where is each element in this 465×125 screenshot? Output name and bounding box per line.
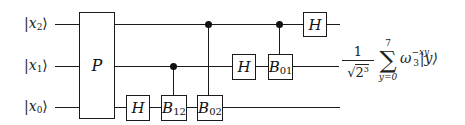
sigma-icon: ∑ <box>377 48 399 72</box>
control-dot-b12 <box>170 63 177 70</box>
control-line-b12 <box>173 67 174 97</box>
summand: ω−xy3|y⟩ <box>400 50 438 66</box>
gate-hadamard-x2: H <box>303 12 327 37</box>
normalization-fraction: 1 √23 <box>342 44 374 80</box>
control-line-b01 <box>279 25 280 55</box>
summation: 7 ∑ y=0 <box>377 38 399 82</box>
fraction-bar <box>342 60 374 61</box>
gate-hadamard-x0: H <box>126 95 150 121</box>
input-label-x1: |x1⟩ <box>24 57 48 73</box>
control-dot-b01 <box>276 21 283 28</box>
control-line-b02 <box>208 25 209 97</box>
gate-permutation-p: P <box>79 12 115 119</box>
gate-b12: B12 <box>161 95 187 121</box>
input-label-x0: |x0⟩ <box>24 98 48 114</box>
gate-b01: B01 <box>268 54 293 80</box>
quantum-circuit-diagram: |x2⟩ |x1⟩ |x0⟩ P H B12 B02 H B01 H <box>0 0 465 125</box>
gate-b02: B02 <box>197 95 223 121</box>
gate-hadamard-x1: H <box>232 54 256 80</box>
control-dot-b02 <box>205 21 212 28</box>
input-label-x2: |x2⟩ <box>24 15 48 31</box>
